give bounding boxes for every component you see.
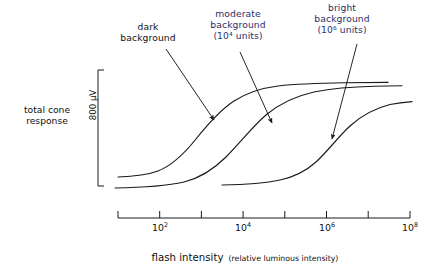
x-axis-caption: flash intensity (relative luminous inten… (95, 246, 395, 264)
y-scalebar-label: 800 µV (88, 75, 98, 135)
x-tick-label-3-exp: 6 (331, 221, 335, 229)
curve-dark-background (118, 82, 388, 177)
x-tick-label-2-exp: 4 (247, 221, 251, 229)
annotation-bright-background: bright background (10⁶ units) (300, 2, 384, 36)
annotation-moderate-line3: (10⁴ units) (192, 30, 284, 41)
x-tick-label-4: 108 (395, 222, 425, 233)
curve-bright-background (222, 102, 412, 185)
x-tick-label-4-exp: 8 (414, 221, 418, 229)
y-scalebar-bracket (98, 70, 104, 186)
annotation-dark-line1: dark (106, 21, 190, 32)
arrow-dark-background (166, 49, 214, 120)
y-axis-label-line1: total cone (14, 104, 80, 115)
y-axis-label: total cone response (14, 104, 80, 127)
x-axis-caption-main: flash intensity (152, 252, 224, 263)
x-tick-label-3-base: 10 (319, 222, 331, 233)
x-axis (118, 211, 410, 218)
y-axis-label-line2: response (14, 115, 80, 126)
x-tick-label-1-exp: 2 (164, 221, 168, 229)
annotation-bright-line1: bright (300, 2, 384, 13)
arrow-bright-background (332, 44, 357, 139)
annotation-moderate-background: moderate background (10⁴ units) (192, 8, 284, 42)
annotation-dark-background: dark background (106, 21, 190, 43)
annotation-bright-line3: (10⁶ units) (300, 24, 384, 35)
curve-moderate-background (115, 86, 402, 188)
x-tick-label-1: 102 (145, 222, 175, 233)
annotation-dark-line2: background (106, 32, 190, 43)
annotation-moderate-line2: background (192, 19, 284, 30)
x-tick-label-2: 104 (228, 222, 258, 233)
annotation-bright-line2: background (300, 13, 384, 24)
figure-canvas: dark background moderate background (10⁴… (0, 0, 425, 264)
x-tick-label-1-base: 10 (152, 222, 164, 233)
x-axis-caption-sub: (relative luminous intensity) (229, 254, 339, 263)
x-tick-label-2-base: 10 (235, 222, 247, 233)
x-tick-label-3: 106 (312, 222, 342, 233)
x-tick-label-4-base: 10 (402, 222, 414, 233)
annotation-moderate-line1: moderate (192, 8, 284, 19)
